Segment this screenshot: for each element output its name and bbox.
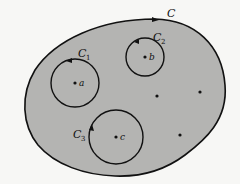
point-b (143, 55, 146, 58)
point-c (114, 135, 117, 138)
contour-diagram: C C 1 a C 2 b C 3 c (0, 0, 240, 184)
point-c-label: c (120, 132, 125, 142)
point-b-label: b (149, 52, 155, 62)
extra-point (198, 90, 201, 93)
point-a-label: a (79, 78, 84, 88)
extra-point (155, 94, 158, 97)
extra-point (178, 133, 181, 136)
c3-label-sub: 3 (81, 135, 85, 143)
c2-label-sub: 2 (161, 38, 165, 46)
c1-label-sub: 1 (86, 54, 90, 62)
point-a (73, 81, 76, 84)
outer-contour-c (25, 19, 225, 176)
outer-contour-label: C (167, 7, 176, 20)
